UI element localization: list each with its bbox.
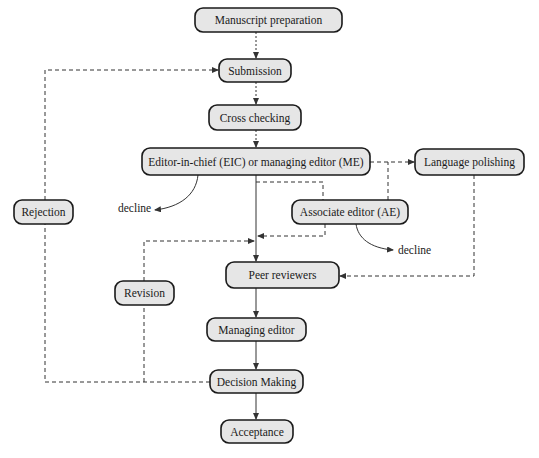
decline-label-eic: decline [118, 202, 151, 214]
node-manuscript-preparation: Manuscript preparation [195, 8, 342, 32]
decline-label-ae: decline [398, 244, 431, 256]
node-eic-me: Editor-in-chief (EIC) or managing editor… [142, 148, 370, 175]
svg-text:Associate editor (AE): Associate editor (AE) [300, 206, 400, 219]
svg-text:Decision Making: Decision Making [217, 376, 297, 389]
node-decision-making: Decision Making [210, 370, 303, 393]
node-acceptance: Acceptance [221, 420, 293, 443]
node-managing-editor: Managing editor [207, 318, 306, 341]
svg-text:Submission: Submission [228, 65, 282, 77]
edge-ae-to-main [258, 224, 325, 236]
svg-text:Rejection: Rejection [21, 206, 65, 219]
edge-ae-decline [356, 224, 393, 250]
flowchart: decline decline Manuscript preparation S… [0, 0, 539, 458]
svg-text:Peer reviewers: Peer reviewers [248, 269, 317, 281]
edge-eic-to-ae [256, 182, 323, 200]
svg-text:Cross checking: Cross checking [220, 112, 291, 125]
node-revision: Revision [115, 281, 174, 305]
node-language-polishing: Language polishing [415, 149, 524, 175]
svg-text:Editor-in-chief (EIC) or manag: Editor-in-chief (EIC) or managing editor… [148, 156, 363, 169]
svg-text:Manuscript preparation: Manuscript preparation [215, 14, 323, 27]
svg-text:Managing editor: Managing editor [218, 324, 294, 337]
edge-rejection-to-submission [45, 70, 218, 200]
edge-lang-to-peer [340, 175, 474, 276]
node-cross-checking: Cross checking [209, 105, 301, 130]
node-associate-editor: Associate editor (AE) [292, 200, 408, 224]
node-rejection: Rejection [14, 200, 73, 224]
svg-text:Revision: Revision [124, 287, 165, 299]
svg-text:Language polishing: Language polishing [424, 156, 515, 169]
node-submission: Submission [219, 59, 291, 82]
connectors [45, 32, 474, 419]
svg-text:Acceptance: Acceptance [230, 426, 284, 439]
node-peer-reviewers: Peer reviewers [226, 262, 339, 288]
edge-eic-decline [155, 175, 198, 210]
